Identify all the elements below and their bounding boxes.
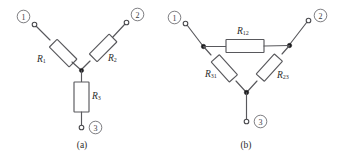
resistor-r12-body bbox=[226, 40, 264, 53]
resistor-r12-label: R12 bbox=[236, 26, 249, 36]
terminal-2-ring[interactable] bbox=[124, 20, 129, 25]
terminal-3-label: 3 bbox=[94, 124, 98, 133]
terminal-1-label: 1 bbox=[173, 14, 177, 23]
wire-right-vertex-to-r23 bbox=[282, 46, 290, 55]
resistor-r12-subscript: 12 bbox=[243, 30, 249, 36]
wire-r31-to-bottom-vertex bbox=[236, 81, 246, 92]
panel-b-caption: (b) bbox=[240, 140, 251, 151]
resistor-r1-subscript: 1 bbox=[43, 58, 46, 64]
terminal-3-ring[interactable] bbox=[244, 119, 249, 124]
resistor-r3-body bbox=[74, 82, 89, 112]
wire-terminal1-to-left-vertex bbox=[187, 25, 203, 46]
resistor-r3-subscript: 3 bbox=[98, 95, 101, 101]
wire-r12-to-right-vertex bbox=[264, 46, 290, 47]
resistor-r2-label: R2 bbox=[107, 53, 117, 63]
terminal-1-ring[interactable] bbox=[183, 21, 188, 26]
terminal-1-badge: 1 bbox=[17, 10, 30, 23]
wire-r2-to-center bbox=[82, 61, 90, 69]
resistor-r31-label: R31 bbox=[204, 69, 217, 79]
terminal-3-ring[interactable] bbox=[79, 125, 84, 130]
circuit-canvas: 1 2 3 R1 R2 R3 (a) bbox=[0, 0, 340, 158]
resistor-r3-label: R3 bbox=[91, 91, 101, 101]
terminal-1-badge: 1 bbox=[168, 11, 181, 24]
terminal-3-badge: 3 bbox=[254, 115, 267, 128]
wire-left-vertex-to-r31 bbox=[204, 47, 212, 56]
resistor-r31-subscript: 31 bbox=[211, 73, 217, 79]
terminal-2-label: 2 bbox=[319, 12, 323, 21]
resistor-r2-subscript: 2 bbox=[114, 57, 117, 63]
wire-r23-to-bottom-vertex bbox=[247, 81, 257, 92]
panel-a-caption: (a) bbox=[77, 140, 88, 151]
panel-a-group: 1 2 3 R1 R2 R3 (a) bbox=[17, 8, 144, 151]
wire-terminal2-to-right-vertex bbox=[290, 22, 307, 44]
wire-terminal2-to-r2 bbox=[112, 24, 125, 38]
wire-r1-to-center bbox=[72, 62, 81, 70]
circuit-figure: 1 2 3 R1 R2 R3 (a) bbox=[0, 0, 340, 158]
panel-b-group: 1 2 3 R12 R31 R23 (b) bbox=[168, 9, 327, 151]
terminal-1-ring[interactable] bbox=[32, 22, 37, 27]
resistor-r1-label: R1 bbox=[36, 54, 46, 64]
terminal-2-ring[interactable] bbox=[306, 18, 311, 23]
terminal-2-badge: 2 bbox=[314, 9, 327, 22]
terminal-3-label: 3 bbox=[259, 118, 263, 127]
resistor-r23-subscript: 23 bbox=[283, 74, 289, 80]
resistor-r23-label: R23 bbox=[276, 70, 289, 80]
wire-terminal1-to-r1 bbox=[36, 26, 50, 40]
terminal-3-badge: 3 bbox=[89, 121, 102, 134]
terminal-1-label: 1 bbox=[22, 13, 26, 22]
terminal-2-label: 2 bbox=[136, 11, 140, 20]
terminal-2-badge: 2 bbox=[131, 8, 144, 21]
